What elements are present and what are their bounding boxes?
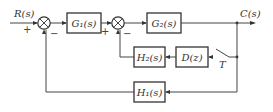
arrow-head-icon — [165, 55, 170, 59]
sampler-switch — [208, 49, 237, 59]
arrow-head-icon — [142, 21, 147, 25]
arrow-head-icon — [116, 30, 120, 35]
wire-h1-sum1 — [46, 30, 134, 92]
input-label: R(s) — [13, 8, 35, 19]
block-h1-label: H₁(s) — [136, 87, 163, 98]
block-h2-label: H₂(s) — [136, 52, 163, 63]
arrow-head-icon — [62, 21, 67, 25]
sum1-minus-sign: − — [50, 28, 58, 39]
arrow-head-icon — [165, 90, 170, 94]
block-diagram: R(s) + − G₁(s) + − G₂(s) C(s) T — [0, 0, 273, 112]
input-plus-sign: + — [23, 24, 31, 35]
block-g1-label: G₁(s) — [72, 18, 97, 29]
output-label: C(s) — [240, 8, 261, 19]
block-d-label: D(z) — [180, 52, 202, 63]
sampler-label: T — [219, 59, 227, 70]
summing-junction-1 — [38, 17, 50, 29]
arrow-head-icon — [250, 21, 256, 25]
sum2-plus-sign: + — [101, 26, 109, 37]
arrow-head-icon — [42, 30, 46, 35]
block-g2-label: G₂(s) — [152, 18, 177, 29]
sum2-minus-sign: − — [123, 28, 131, 39]
